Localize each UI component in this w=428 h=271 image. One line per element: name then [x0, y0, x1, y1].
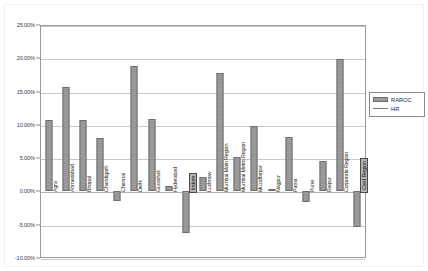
y-axis-tick-label: 20.00% — [17, 55, 35, 61]
category-label[interactable]: Guwahati — [155, 170, 161, 194]
legend-label: HR — [391, 106, 399, 112]
chart-legend[interactable]: RAROCHR — [369, 92, 425, 117]
category-label[interactable]: Agra — [52, 181, 58, 194]
legend-item[interactable]: HR — [372, 104, 422, 113]
category-label[interactable]: Chandigarh — [103, 165, 109, 193]
y-axis-tick-label: -5.00% — [18, 222, 35, 228]
category-label[interactable]: Raipur — [326, 176, 332, 193]
legend-line-swatch-icon — [373, 108, 388, 109]
category-label[interactable]: Muzaffarpur — [257, 164, 263, 193]
category-label[interactable]: Lucknow — [206, 171, 212, 193]
category-label[interactable]: Indore — [189, 173, 197, 193]
category-label[interactable]: Nagpur — [275, 175, 281, 194]
y-axis-tick-label: 25.00% — [17, 22, 35, 28]
category-label[interactable]: Hyderabad — [172, 166, 178, 193]
y-axis: 25.00%20.00%15.00%10.00%5.00%0.00%-5.00%… — [0, 25, 40, 258]
category-label[interactable]: Ahmedabad — [69, 164, 75, 194]
category-label[interactable]: Mumbai Main Region — [223, 143, 229, 193]
category-label[interactable]: Card Region — [360, 159, 368, 194]
y-axis-tick-label: 15.00% — [17, 89, 35, 95]
y-axis-tick-label: 5.00% — [20, 155, 35, 161]
gridline — [41, 259, 365, 260]
category-label[interactable]: Patna — [292, 178, 298, 193]
category-label[interactable]: Corporate Region — [343, 151, 349, 193]
category-label[interactable]: Bhopal — [86, 176, 92, 194]
y-axis-tick-label: 10.00% — [17, 122, 35, 128]
y-axis-tick-label: 0.00% — [20, 188, 35, 194]
category-label[interactable]: Mumbai Metro Region — [240, 141, 246, 193]
category-label[interactable]: Delhi — [137, 180, 143, 194]
legend-bar-swatch-icon — [373, 97, 388, 102]
category-label[interactable]: Pune — [309, 179, 315, 193]
legend-item[interactable]: RAROC — [372, 95, 422, 104]
category-label[interactable]: Chennai — [120, 172, 126, 193]
y-axis-tick-label: -10.00% — [15, 255, 35, 261]
category-labels-layer: AgraAhmedabadBhopalChandigarhChennaiDelh… — [40, 25, 366, 258]
chart-container: 25.00%20.00%15.00%10.00%5.00%0.00%-5.00%… — [0, 0, 428, 271]
legend-label: RAROC — [391, 97, 412, 103]
